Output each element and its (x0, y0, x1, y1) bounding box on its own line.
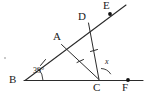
point-label-c: C (93, 82, 100, 93)
point-label-f: F (122, 82, 128, 93)
angle-arc-c (101, 69, 111, 75)
point-label-e: E (103, 0, 110, 11)
tick-mark-ba (41, 60, 46, 66)
point-label-d: D (78, 11, 86, 22)
geometry-figure: B A D E C F 39° x (0, 0, 144, 97)
point-marker-e (108, 12, 112, 16)
angle-label-x: x (105, 58, 109, 66)
point-label-a: A (53, 31, 61, 42)
angle-label-b: 39° (33, 67, 44, 75)
point-label-b: B (9, 74, 16, 85)
